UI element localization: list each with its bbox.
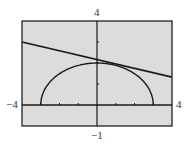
x-min-label: −4 bbox=[6, 99, 18, 110]
y-min-label: −1 bbox=[91, 130, 103, 141]
x-max-label: 4 bbox=[176, 99, 182, 110]
y-max-label: 4 bbox=[94, 7, 100, 18]
